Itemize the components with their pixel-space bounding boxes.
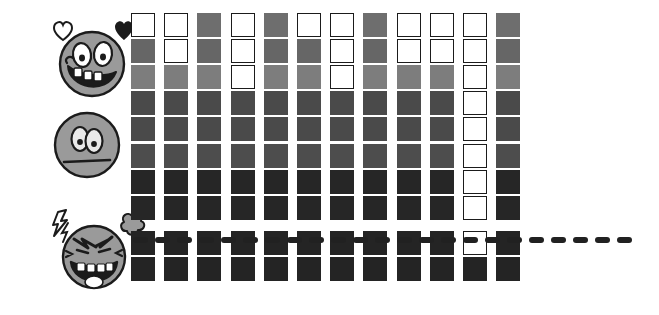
grid-cell[interactable]: [264, 13, 288, 37]
grid-cell[interactable]: [164, 117, 188, 141]
grid-cell[interactable]: [197, 13, 221, 37]
grid-cell[interactable]: [496, 117, 520, 141]
grid-cell[interactable]: [164, 257, 188, 281]
grid-cell[interactable]: [496, 91, 520, 115]
grid-cell[interactable]: [231, 13, 255, 37]
grid-cell[interactable]: [131, 39, 155, 63]
grid-cell[interactable]: [397, 13, 421, 37]
grid-cell[interactable]: [463, 170, 487, 194]
grid-cell[interactable]: [363, 117, 387, 141]
grid-cell[interactable]: [430, 91, 454, 115]
grid-cell[interactable]: [231, 144, 255, 168]
grid-cell[interactable]: [397, 144, 421, 168]
grid-cell[interactable]: [496, 170, 520, 194]
grid-cell[interactable]: [264, 117, 288, 141]
grid-cell[interactable]: [330, 257, 354, 281]
grid-cell[interactable]: [264, 91, 288, 115]
grid-cell[interactable]: [231, 117, 255, 141]
grid-cell[interactable]: [330, 39, 354, 63]
grid-cell[interactable]: [297, 65, 321, 89]
grid-cell[interactable]: [131, 257, 155, 281]
grid-cell[interactable]: [231, 170, 255, 194]
grid-cell[interactable]: [330, 91, 354, 115]
grid-cell[interactable]: [430, 117, 454, 141]
grid-cell[interactable]: [197, 257, 221, 281]
grid-cell[interactable]: [397, 257, 421, 281]
grid-cell[interactable]: [430, 196, 454, 220]
grid-cell[interactable]: [264, 144, 288, 168]
grid-cell[interactable]: [264, 257, 288, 281]
grid-cell[interactable]: [430, 257, 454, 281]
grid-cell[interactable]: [164, 13, 188, 37]
grid-cell[interactable]: [330, 65, 354, 89]
grid-cell[interactable]: [330, 144, 354, 168]
grid-cell[interactable]: [330, 117, 354, 141]
grid-cell[interactable]: [231, 91, 255, 115]
grid-cell[interactable]: [463, 144, 487, 168]
grid-cell[interactable]: [397, 65, 421, 89]
grid-cell[interactable]: [363, 170, 387, 194]
grid-cell[interactable]: [430, 65, 454, 89]
grid-cell[interactable]: [264, 39, 288, 63]
grid-cell[interactable]: [164, 39, 188, 63]
grid-cell[interactable]: [297, 196, 321, 220]
grid-cell[interactable]: [463, 65, 487, 89]
grid-cell[interactable]: [231, 39, 255, 63]
grid-cell[interactable]: [463, 39, 487, 63]
grid-cell[interactable]: [496, 65, 520, 89]
grid-cell[interactable]: [264, 170, 288, 194]
grid-cell[interactable]: [231, 257, 255, 281]
grid-cell[interactable]: [297, 257, 321, 281]
grid-cell[interactable]: [197, 117, 221, 141]
grid-cell[interactable]: [131, 170, 155, 194]
grid-cell[interactable]: [197, 65, 221, 89]
grid-cell[interactable]: [430, 13, 454, 37]
grid-cell[interactable]: [164, 196, 188, 220]
grid-cell[interactable]: [264, 196, 288, 220]
grid-cell[interactable]: [197, 144, 221, 168]
grid-cell[interactable]: [131, 196, 155, 220]
grid-cell[interactable]: [131, 13, 155, 37]
grid-cell[interactable]: [363, 65, 387, 89]
grid-cell[interactable]: [363, 39, 387, 63]
grid-cell[interactable]: [231, 65, 255, 89]
grid-cell[interactable]: [363, 91, 387, 115]
grid-cell[interactable]: [363, 13, 387, 37]
grid-cell[interactable]: [131, 65, 155, 89]
grid-cell[interactable]: [496, 13, 520, 37]
grid-cell[interactable]: [463, 196, 487, 220]
grid-cell[interactable]: [397, 196, 421, 220]
grid-cell[interactable]: [297, 39, 321, 63]
grid-cell[interactable]: [363, 257, 387, 281]
grid-cell[interactable]: [463, 91, 487, 115]
grid-cell[interactable]: [496, 257, 520, 281]
grid-cell[interactable]: [297, 13, 321, 37]
grid-cell[interactable]: [197, 39, 221, 63]
grid-cell[interactable]: [397, 117, 421, 141]
grid-cell[interactable]: [397, 170, 421, 194]
grid-cell[interactable]: [463, 257, 487, 281]
grid-cell[interactable]: [297, 170, 321, 194]
grid-cell[interactable]: [496, 39, 520, 63]
grid-cell[interactable]: [330, 13, 354, 37]
grid-cell[interactable]: [131, 117, 155, 141]
grid-cell[interactable]: [297, 117, 321, 141]
grid-cell[interactable]: [496, 196, 520, 220]
grid-cell[interactable]: [197, 170, 221, 194]
grid-cell[interactable]: [164, 65, 188, 89]
grid-cell[interactable]: [363, 196, 387, 220]
grid-cell[interactable]: [330, 170, 354, 194]
grid-cell[interactable]: [363, 144, 387, 168]
grid-cell[interactable]: [297, 144, 321, 168]
grid-cell[interactable]: [430, 39, 454, 63]
grid-cell[interactable]: [463, 13, 487, 37]
grid-cell[interactable]: [164, 170, 188, 194]
grid-cell[interactable]: [463, 117, 487, 141]
grid-cell[interactable]: [297, 91, 321, 115]
grid-cell[interactable]: [430, 144, 454, 168]
grid-cell[interactable]: [397, 91, 421, 115]
grid-cell[interactable]: [496, 144, 520, 168]
grid-cell[interactable]: [264, 65, 288, 89]
grid-cell[interactable]: [231, 196, 255, 220]
grid-cell[interactable]: [131, 144, 155, 168]
